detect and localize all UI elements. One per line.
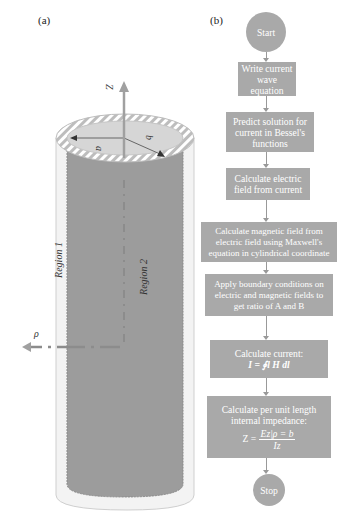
step-text: Calculate current: [235, 348, 303, 359]
step-text: functions [252, 138, 288, 149]
cylinder-diagram: a b Z ρ Region 1 Region 2 [0, 0, 200, 528]
region-2-label: Region 2 [138, 259, 149, 296]
panel-label-b: (b) [210, 14, 223, 26]
impedance-equation: Z = Ez|ρ = b Iz [243, 428, 296, 451]
current-equation: I = ∮l H dl [248, 359, 289, 370]
stop-label: Stop [260, 485, 278, 496]
z-axis-arrowhead [119, 81, 129, 92]
stop-node: Stop [253, 474, 285, 506]
step-text: Calculate electric [235, 173, 302, 184]
step-text: current in Bessel's [235, 127, 305, 138]
step-text: get ratio of A and B [234, 301, 305, 312]
radius-a-label: a [94, 146, 105, 151]
step-text: Predict solution for [233, 116, 307, 127]
connector [266, 200, 267, 220]
step-text: electric and magnetic fields to [215, 290, 323, 301]
equation-denominator: Iz [274, 440, 281, 451]
step-calculate-current: Calculate current: I = ∮l H dl [210, 340, 328, 378]
step-calculate-magnetic-field: Calculate magnetic field from electric f… [201, 222, 337, 262]
step-text: Calculate per unit length [222, 404, 317, 415]
rho-axis-arrowhead [22, 342, 31, 352]
step-calculate-electric-field: Calculate electric field from current [226, 168, 310, 200]
rho-axis-label: ρ [33, 328, 39, 339]
start-label: Start [257, 27, 275, 38]
step-text: Calculate magnetic field from [215, 226, 323, 237]
region-1-label: Region 1 [53, 242, 64, 279]
equation-lhs: Z = [243, 432, 257, 443]
step-text: electric field using Maxwell's [216, 237, 322, 248]
step-calculate-impedance: Calculate per unit length internal imped… [207, 396, 331, 458]
step-predict-bessel-solution: Predict solution for current in Bessel's… [226, 112, 314, 152]
step-text: Write current [241, 63, 292, 74]
step-apply-boundary-conditions: Apply boundary conditions on electric an… [205, 274, 333, 316]
step-write-wave-equation: Write current wave equation [238, 62, 296, 96]
start-node: Start [246, 12, 286, 52]
step-text: internal impedance: [231, 415, 307, 426]
radius-b-label: b [144, 135, 155, 140]
step-text: Apply boundary conditions on [214, 279, 324, 290]
z-axis-label: Z [104, 84, 115, 90]
step-text: equation in cylindrical coordinate [208, 248, 329, 259]
step-text: wave equation [241, 74, 293, 96]
equation-numerator: Ez|ρ = b [259, 428, 296, 440]
step-text: field from current [234, 184, 302, 195]
equation-fraction: Ez|ρ = b Iz [259, 428, 296, 451]
connector [266, 316, 267, 338]
